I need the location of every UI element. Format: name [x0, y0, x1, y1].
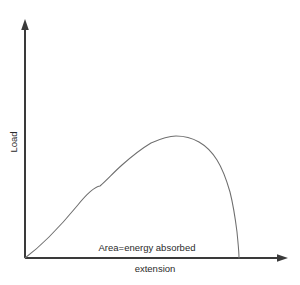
- x-axis-arrow-icon: [277, 254, 288, 262]
- chart-canvas: Load extension Area=energy absorbed: [0, 0, 300, 285]
- y-axis-arrow-icon: [21, 19, 29, 30]
- x-axis-label: extension: [135, 263, 176, 274]
- load-extension-curve: [25, 136, 239, 258]
- load-extension-figure: Load extension Area=energy absorbed: [0, 0, 300, 285]
- y-axis-label: Load: [8, 131, 19, 152]
- area-energy-annotation: Area=energy absorbed: [99, 242, 196, 253]
